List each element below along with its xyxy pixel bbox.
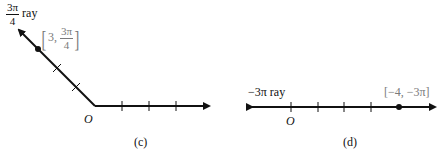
ray-label-numerator: 3π — [6, 2, 19, 15]
point-theta-numerator: 3π — [60, 26, 73, 39]
separator: , — [54, 30, 57, 44]
ray-label-c: 3π4 ray — [6, 2, 37, 27]
point-theta-denominator: 4 — [64, 39, 70, 51]
ray-label-d: −3π ray — [248, 86, 285, 98]
plotted-point — [396, 104, 402, 110]
ray-label-denominator: 4 — [10, 15, 16, 27]
origin-label-d: O — [286, 115, 295, 127]
point-label-d: [−4, −3π] — [384, 86, 430, 98]
caption-d: (d) — [343, 136, 357, 148]
point-label-c: [3, 3π4] — [40, 26, 81, 51]
diagram-canvas — [0, 0, 439, 155]
ray-label-suffix: ray — [22, 6, 37, 20]
panel-d-graph — [252, 102, 435, 112]
caption-c: (c) — [134, 136, 147, 148]
origin-label-c: O — [84, 113, 93, 125]
